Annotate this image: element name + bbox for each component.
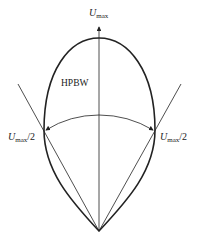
main-lobe <box>44 38 155 231</box>
radiation-pattern-diagram <box>0 0 198 238</box>
hpbw-arc <box>46 115 99 130</box>
left-half-power-line <box>18 84 99 231</box>
umax-half-left-label: Umax/2 <box>8 131 35 144</box>
hpbw-label: HPBW <box>61 78 88 88</box>
right-half-power-line <box>99 84 181 231</box>
hpbw-arc-right <box>99 115 153 130</box>
umax-half-right-label: Umax/2 <box>160 131 187 144</box>
umax-top-label: Umax <box>89 7 108 20</box>
